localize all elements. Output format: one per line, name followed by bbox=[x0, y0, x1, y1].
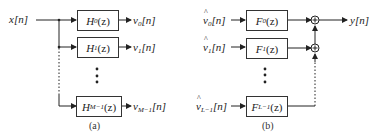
caption-b: (b) bbox=[262, 120, 274, 131]
analysis-filter-1: H1(z) bbox=[77, 37, 119, 58]
analysis-filter-m-1: HM−1(z) bbox=[76, 96, 122, 117]
analysis-filter-0: H0(z) bbox=[77, 10, 119, 31]
input-v0-hat-label: v0[n] bbox=[203, 14, 225, 30]
output-v0-label: v0[n] bbox=[133, 14, 155, 30]
input-v1-hat-label: v1[n] bbox=[203, 41, 225, 57]
caption-a: (a) bbox=[89, 120, 100, 131]
output-v1-label: v1[n] bbox=[133, 41, 155, 57]
output-signal-label: y[n] bbox=[350, 14, 369, 26]
input-vl-1-hat-label: vL−1[n] bbox=[196, 100, 227, 116]
synthesis-filter-0: F0(z) bbox=[246, 10, 288, 31]
synthesis-filter-l-1: FL−1(z) bbox=[246, 96, 288, 117]
input-signal-label: x[n] bbox=[9, 13, 28, 25]
synthesis-filter-1: F1(z) bbox=[246, 38, 288, 59]
diagram-lines bbox=[0, 0, 377, 136]
output-vm-1-label: vM−1[n] bbox=[133, 100, 166, 116]
